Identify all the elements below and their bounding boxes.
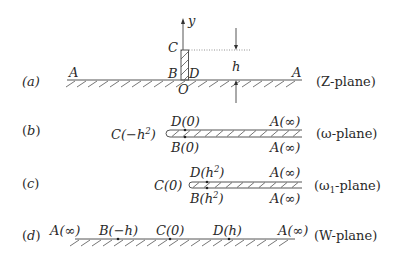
panel-c-tag: (c)	[22, 176, 39, 191]
hatch-stroke	[259, 183, 265, 188]
panel-d-tag: (d)	[22, 228, 40, 243]
plane-label-omega1: (ω1-plane)	[314, 178, 381, 195]
hatch-stroke	[205, 131, 212, 137]
hatch-stroke	[249, 131, 256, 137]
point-D-marker	[206, 181, 209, 184]
omega1-slit-hatching	[193, 183, 298, 188]
hatch-stroke	[235, 240, 244, 246]
hatch-stroke	[165, 81, 174, 87]
hatch-stroke	[125, 240, 134, 246]
panel-d: (d) A(∞) B(−h) C(0) D(h) A(∞) (W-plane)	[22, 223, 377, 246]
hatch-stroke	[132, 81, 141, 87]
panel-b: (b) C(−h2) D(0) B(0) A(∞) A(∞) (ω-plane)	[22, 114, 377, 155]
hatch-stroke	[180, 240, 189, 246]
barrier-plate	[181, 50, 189, 80]
hatch-stroke	[257, 240, 266, 246]
point-A-right: A	[291, 65, 301, 80]
hatch-stroke	[92, 240, 101, 246]
panel-b-tag: (b)	[22, 123, 40, 138]
point-A-top: A(∞)	[269, 114, 300, 129]
point-B: B(0)	[170, 140, 199, 155]
hatch-stroke	[193, 183, 199, 188]
hatch-stroke	[216, 131, 223, 137]
point-C: C(0)	[154, 178, 182, 193]
point-C: C	[168, 40, 178, 55]
hatch-stroke	[270, 183, 276, 188]
hatch-stroke	[136, 240, 145, 246]
hatch-stroke	[220, 81, 229, 87]
hatch-stroke	[194, 131, 201, 137]
hatch-stroke	[279, 240, 288, 246]
point-B-marker	[206, 187, 209, 190]
point-D: D(h2)	[189, 164, 224, 180]
hatch-stroke	[191, 240, 200, 246]
point-D-marker	[184, 129, 187, 132]
hatch-stroke	[183, 131, 190, 137]
point-C: C(−h2)	[111, 126, 156, 142]
hatch-stroke	[260, 131, 267, 137]
point-B: B(h2)	[189, 190, 224, 206]
hatch-stroke	[264, 81, 273, 87]
point-C: C(0)	[156, 223, 184, 238]
panel-c: (c) C(0) D(h2) B(h2) A(∞) A(∞) (ω1-plane…	[22, 164, 381, 206]
hatch-stroke	[268, 240, 277, 246]
point-A-bottom: A(∞)	[269, 191, 300, 206]
hatch-stroke	[286, 81, 295, 87]
hatch-stroke	[275, 81, 284, 87]
point-A-left: A	[68, 65, 78, 80]
plane-label-z: (Z-plane)	[316, 74, 376, 89]
hatch-stroke	[147, 240, 156, 246]
hatch-stroke	[169, 240, 178, 246]
hatch-stroke	[242, 81, 251, 87]
hatch-stroke	[213, 240, 222, 246]
hatch-stroke	[224, 240, 233, 246]
hatch-stroke	[292, 183, 298, 188]
point-A-top: A(∞)	[269, 165, 300, 180]
hatch-stroke	[281, 183, 287, 188]
hatch-stroke	[158, 240, 167, 246]
y-axis-arrowhead-icon	[181, 18, 185, 24]
hatch-stroke	[154, 81, 163, 87]
point-D: D(0)	[170, 114, 200, 129]
plane-label-omega: (ω-plane)	[316, 126, 377, 141]
hatch-stroke	[246, 240, 255, 246]
hatch-stroke	[226, 183, 232, 188]
point-B: B(−h)	[98, 223, 138, 238]
hatch-stroke	[143, 81, 152, 87]
point-A-right: A(∞)	[277, 223, 308, 238]
point-A-left: A(∞)	[49, 223, 80, 238]
plane-label-w: (W-plane)	[314, 228, 377, 243]
hatch-stroke	[198, 81, 207, 87]
arrow-down-icon	[234, 45, 238, 50]
point-B-marker	[184, 136, 187, 139]
height-label: h	[232, 59, 240, 74]
point-D: D(h)	[212, 223, 242, 238]
point-D-marker	[228, 238, 231, 241]
hatch-stroke	[282, 131, 289, 137]
hatch-stroke	[253, 81, 262, 87]
hatch-stroke	[227, 131, 234, 137]
conformal-mapping-diagram: (a) y h A A C B D O (Z-plane) (b) C(−h2)…	[0, 0, 396, 258]
hatch-stroke	[248, 183, 254, 188]
hatch-stroke	[271, 131, 278, 137]
hatch-stroke	[77, 81, 86, 87]
hatch-stroke	[70, 240, 79, 246]
hatch-stroke	[172, 131, 179, 137]
point-C-marker	[169, 238, 172, 241]
point-D: D	[188, 66, 200, 81]
omega1-slit	[189, 182, 302, 188]
hatch-stroke	[121, 81, 130, 87]
hatch-stroke	[215, 183, 221, 188]
hatch-stroke	[238, 131, 245, 137]
hatch-stroke	[99, 81, 108, 87]
panel-a: (a) y h A A C B D O (Z-plane)	[22, 13, 376, 103]
panel-a-tag: (a)	[22, 74, 40, 89]
hatch-stroke	[114, 240, 123, 246]
omega-slit-hatching	[172, 131, 300, 137]
hatch-stroke	[110, 81, 119, 87]
w-plane-hatching	[70, 240, 288, 246]
hatch-stroke	[81, 240, 90, 246]
hatch-stroke	[293, 131, 300, 137]
hatch-stroke	[237, 183, 243, 188]
point-O: O	[178, 82, 189, 97]
